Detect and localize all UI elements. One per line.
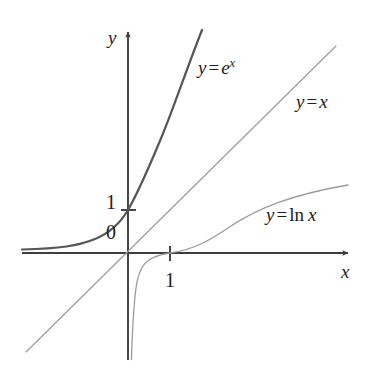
identity-label-rhs: x (319, 91, 327, 112)
plot-canvas (0, 0, 376, 368)
y-axis-tick-label-1: 1 (106, 192, 116, 212)
curve-label-exponential: y=ex (198, 58, 235, 77)
exp-label-exponent: x (230, 56, 236, 70)
exp-label-equals: = (206, 57, 221, 78)
log-label-function: ln (289, 204, 304, 225)
origin-label: 0 (106, 222, 116, 242)
identity-label-equals: = (304, 91, 319, 112)
y-axis-label: y (108, 28, 116, 47)
x-axis-tick-label-1: 1 (165, 270, 175, 290)
curve-label-natural-log: y=lnx (266, 205, 316, 224)
log-label-argument: x (304, 204, 316, 225)
exp-label-base: e (221, 57, 229, 78)
exponential-logarithm-figure: y=ex y=x y=lnx y x 0 1 1 (0, 0, 376, 368)
curve-exponential (22, 30, 202, 250)
x-axis-label: x (341, 262, 349, 281)
log-label-equals: = (274, 204, 289, 225)
curve-label-identity: y=x (296, 92, 328, 111)
